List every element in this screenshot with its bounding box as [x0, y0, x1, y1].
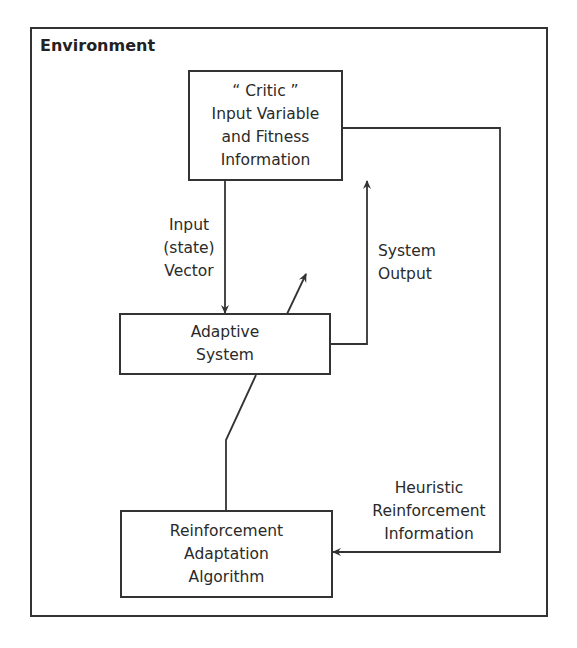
critic-box: “ Critic ” Input Variable and Fitness In… — [188, 70, 343, 181]
adaptive-line-2: System — [196, 344, 254, 367]
critic-line-1: “ Critic ” — [232, 80, 298, 103]
critic-line-3: and Fitness — [222, 126, 310, 149]
reinforcement-line-1: Reinforcement — [170, 520, 283, 543]
heuristic-label: Heuristic Reinforcement Information — [364, 477, 494, 546]
reinforcement-line-3: Algorithm — [189, 566, 265, 589]
adaptive-adjust-arrow — [287, 274, 306, 314]
adaptive-line-1: Adaptive — [191, 321, 260, 344]
adaptive-system-box: Adaptive System — [119, 313, 331, 375]
reinforcement-algorithm-box: Reinforcement Adaptation Algorithm — [120, 510, 333, 598]
critic-line-2: Input Variable — [212, 103, 320, 126]
input-vector-label: Input (state) Vector — [160, 214, 218, 283]
system-output-arrow — [330, 181, 367, 344]
critic-line-4: Information — [221, 149, 311, 172]
reinforcement-connector — [226, 375, 256, 511]
system-output-label: System Output — [378, 240, 458, 286]
reinforcement-line-2: Adaptation — [184, 543, 269, 566]
